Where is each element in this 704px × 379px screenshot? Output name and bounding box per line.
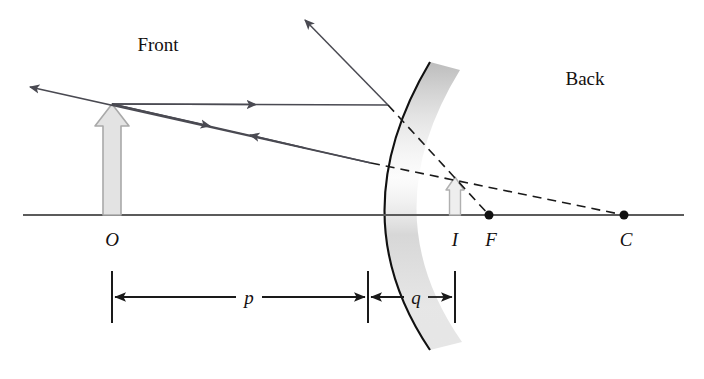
diagram-canvas: Front Back O I F C p q [0, 0, 704, 379]
back-region-label: Back [565, 68, 605, 89]
object-point-label: O [105, 229, 119, 250]
object-arrow [95, 104, 129, 215]
ray-parallel-direction-arrow [112, 104, 256, 105]
ray-to-center-reflected-segment [30, 87, 371, 163]
image-arrow [446, 177, 464, 215]
ray-parallel-incident [112, 104, 388, 105]
ray-to-center-reflected [30, 87, 371, 163]
image-point-label: I [451, 229, 460, 250]
object-distance-label: p [242, 287, 254, 308]
ray-parallel-reflected [305, 20, 388, 105]
focal-point-label: F [484, 229, 497, 250]
image-arrow-shape [446, 177, 464, 215]
front-region-label: Front [137, 34, 179, 55]
center-point-label: C [620, 229, 633, 250]
ray-diagram-figure: Front Back O I F C p q [0, 0, 704, 379]
ray-parallel-reflected-segment [305, 20, 388, 105]
image-distance-label: q [411, 287, 421, 308]
object-arrow-shape [95, 104, 129, 215]
focal-point-dot [485, 211, 494, 220]
center-of-curvature-dot [620, 211, 629, 220]
